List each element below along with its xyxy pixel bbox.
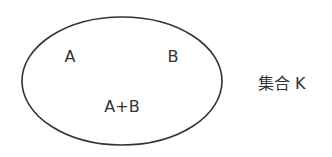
set-k-boundary [22,17,222,145]
venn-diagram: A B A+B 集合 K [0,0,332,157]
set-k-name: 集合 K [258,74,306,93]
element-a-plus-b-label: A+B [104,97,139,116]
element-a-label: A [65,47,76,66]
element-b-label: B [168,47,179,66]
